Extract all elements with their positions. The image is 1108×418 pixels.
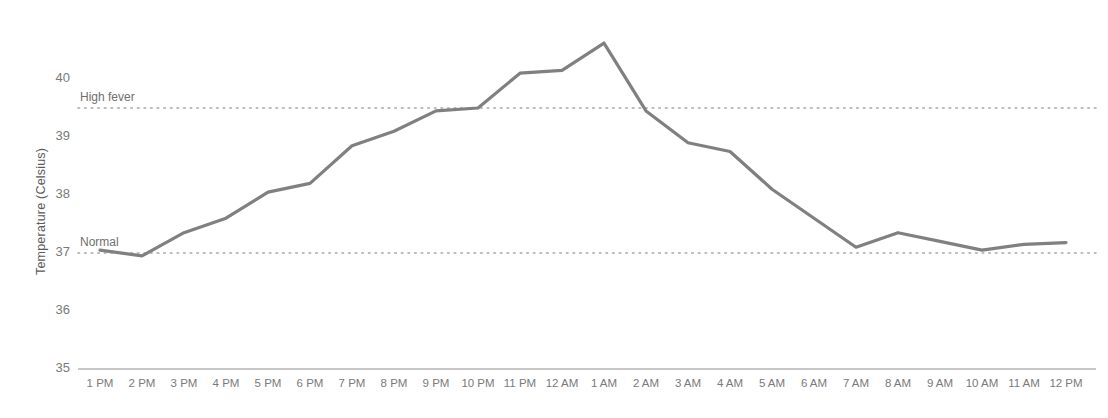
plot-area — [0, 0, 1108, 418]
reference-lines — [78, 108, 1096, 253]
temperature-series-line — [100, 43, 1066, 256]
temperature-line-chart: Temperature (Celsius) 353637383940 1 PM2… — [0, 0, 1108, 418]
